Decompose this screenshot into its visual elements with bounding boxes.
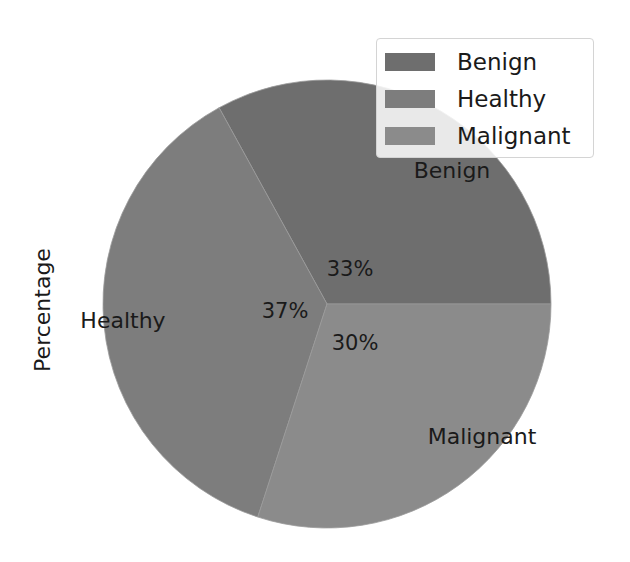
legend-label-benign: Benign <box>457 49 537 75</box>
legend-swatch-malignant <box>385 127 435 145</box>
legend-item-malignant: Malignant <box>385 119 571 153</box>
slice-label-healthy: Healthy <box>80 308 165 333</box>
y-axis-label: Percentage <box>30 248 55 372</box>
legend-item-healthy: Healthy <box>385 82 546 116</box>
slice-pct-healthy: 37% <box>262 299 309 323</box>
slice-pct-benign: 33% <box>327 257 374 281</box>
legend-label-malignant: Malignant <box>457 123 571 149</box>
slice-pct-malignant: 30% <box>332 331 379 355</box>
legend-swatch-benign <box>385 53 435 71</box>
legend: Benign Healthy Malignant <box>376 38 594 158</box>
legend-item-benign: Benign <box>385 45 537 79</box>
slice-label-benign: Benign <box>414 158 491 183</box>
legend-label-healthy: Healthy <box>457 86 546 112</box>
legend-swatch-healthy <box>385 90 435 108</box>
slice-label-malignant: Malignant <box>428 424 537 449</box>
